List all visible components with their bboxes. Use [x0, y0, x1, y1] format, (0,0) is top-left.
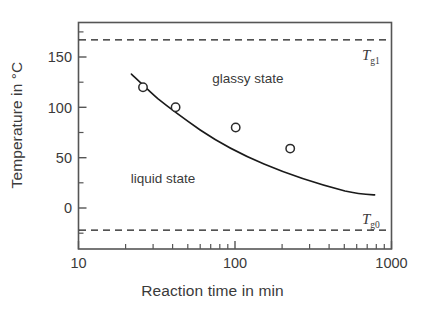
tg0-label: Tg0	[362, 211, 380, 230]
x-axis-title: Reaction time in min	[0, 282, 425, 300]
tg1-label: Tg1	[362, 47, 380, 66]
chart-figure: 150 100 50 0 10 100 1000 glassy state li…	[0, 0, 425, 312]
x-tick-label-100: 100	[223, 255, 247, 271]
tg0-subscript: g0	[370, 220, 380, 230]
y-tick-label-150: 150	[48, 49, 72, 65]
y-tick-label-100: 100	[48, 100, 72, 116]
x-tick-label-1000: 1000	[375, 255, 407, 271]
x-tick-label-10: 10	[70, 255, 86, 271]
y-tick-label-0: 0	[64, 200, 72, 216]
data-point-marker	[171, 103, 179, 111]
glassy-state-label: glassy state	[212, 71, 283, 86]
y-tick-label-50: 50	[56, 150, 72, 166]
tg1-subscript: g1	[370, 56, 380, 66]
y-axis-title: Temperature in °C	[8, 61, 26, 188]
data-markers	[139, 83, 295, 153]
plot-area: 150 100 50 0 10 100 1000 glassy state li…	[0, 0, 425, 312]
data-point-marker	[286, 144, 294, 152]
plot-frame	[79, 23, 392, 250]
data-point-marker	[232, 123, 240, 131]
y-axis-title-container: Temperature in °C	[0, 0, 34, 249]
data-point-marker	[139, 83, 147, 91]
liquid-state-label: liquid state	[131, 171, 196, 186]
